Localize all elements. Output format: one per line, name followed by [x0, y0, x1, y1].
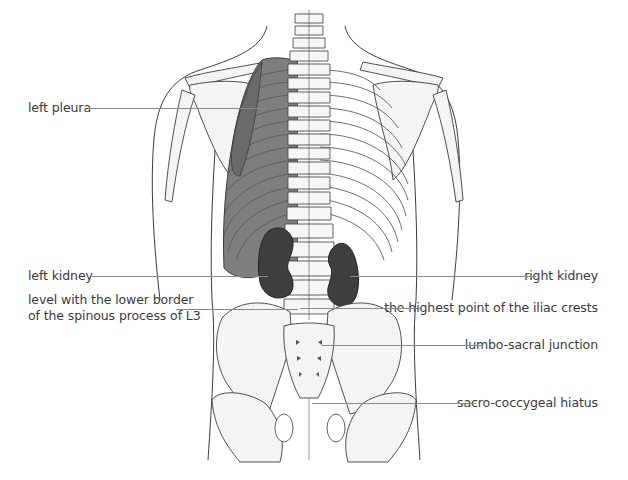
leader-iliac-crests: [300, 308, 422, 309]
leader-sacro-coccygeal: [312, 403, 476, 404]
label-l3-line2: of the spinous process of L3: [28, 308, 201, 324]
pelvis: [212, 303, 416, 462]
label-left-pleura: left pleura: [28, 100, 91, 116]
leader-left-kidney: [92, 276, 268, 277]
leader-left-pleura: [88, 108, 266, 109]
right-kidney-shape: [328, 243, 359, 306]
left-obturator-foramen: [275, 414, 293, 442]
sacrum: [284, 323, 335, 398]
right-obturator-foramen: [327, 414, 345, 442]
label-left-kidney: left kidney: [28, 268, 93, 284]
label-lumbo-sacral: lumbo-sacral junction: [465, 337, 598, 353]
vertebral-column: [283, 10, 335, 320]
label-sacro-coccygeal: sacro-coccygeal hiatus: [457, 395, 598, 411]
leader-l3: [176, 309, 298, 310]
left-kidney-shape: [258, 228, 293, 298]
left-humerus: [165, 90, 195, 202]
leader-right-kidney: [350, 276, 536, 277]
leader-lumbo-sacral: [322, 345, 482, 346]
label-l3-line1: level with the lower border: [28, 292, 193, 308]
